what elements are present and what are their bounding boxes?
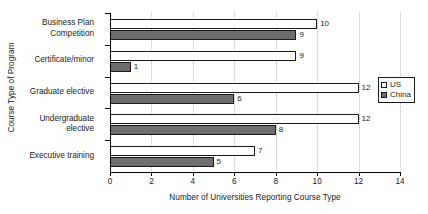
bar-value-label-us: 9 <box>299 51 303 61</box>
x-tick-label: 0 <box>97 177 123 186</box>
category-label: Business PlanCompetition <box>2 18 94 39</box>
bar-value-label-china: 8 <box>279 125 283 135</box>
x-tick <box>317 172 318 176</box>
y-tick <box>105 13 110 14</box>
bar-value-label-us: 10 <box>320 19 329 29</box>
bar-us <box>110 83 359 93</box>
x-tick <box>110 172 111 176</box>
bar-value-label-china: 5 <box>217 157 221 167</box>
x-tick <box>276 172 277 176</box>
x-tick-label: 2 <box>138 177 164 186</box>
bar-group: 91 <box>110 45 400 77</box>
x-tick <box>400 172 401 176</box>
x-axis-title: Number of Universities Reporting Course … <box>110 193 400 202</box>
bar-group: 75 <box>110 140 400 172</box>
bar-group: 128 <box>110 108 400 140</box>
y-tick <box>105 140 110 141</box>
category-label: Certificate/minor <box>2 55 94 66</box>
bar-us <box>110 19 317 29</box>
legend-label-china: China <box>390 90 411 100</box>
legend-swatch-china <box>381 92 387 98</box>
legend-label-us: US <box>390 80 401 90</box>
legend-item-us: US <box>381 80 411 90</box>
y-tick <box>105 45 110 46</box>
bar-value-label-us: 7 <box>258 146 262 156</box>
bar-value-label-china: 6 <box>237 94 241 104</box>
bar-value-label-us: 12 <box>362 83 371 93</box>
bar-value-label-us: 12 <box>362 114 371 124</box>
category-label: Graduate elective <box>2 87 94 98</box>
x-tick <box>151 172 152 176</box>
bar-group: 126 <box>110 77 400 109</box>
bar-chart-figure: Course Type of Program Number of Univers… <box>0 0 428 214</box>
y-tick <box>105 108 110 109</box>
bar-us <box>110 51 296 61</box>
category-label-line: Competition <box>2 29 94 40</box>
category-label-line: Certificate/minor <box>2 55 94 66</box>
legend-item-china: China <box>381 90 411 100</box>
bar-china <box>110 94 234 104</box>
plot-area: 1099112612875 <box>110 13 400 172</box>
category-label-line: Executive training <box>2 151 94 162</box>
x-tick-label: 12 <box>346 177 372 186</box>
bar-value-label-china: 9 <box>299 30 303 40</box>
category-label: Undergraduateelective <box>2 114 94 135</box>
category-label: Executive training <box>2 151 94 162</box>
x-tick <box>359 172 360 176</box>
category-label-line: Undergraduate <box>2 114 94 125</box>
bar-china <box>110 62 131 72</box>
chart-legend: US China <box>378 77 415 103</box>
x-tick-label: 14 <box>387 177 413 186</box>
bar-china <box>110 157 214 167</box>
x-tick-label: 10 <box>304 177 330 186</box>
y-tick <box>105 77 110 78</box>
x-axis-line <box>110 172 401 173</box>
bar-value-label-china: 1 <box>134 62 138 72</box>
x-tick <box>193 172 194 176</box>
legend-swatch-us <box>381 82 387 88</box>
category-label-line: Graduate elective <box>2 87 94 98</box>
category-label-line: elective <box>2 124 94 135</box>
y-axis-line <box>110 13 111 172</box>
x-tick <box>234 172 235 176</box>
bar-group: 109 <box>110 13 400 45</box>
x-tick-label: 6 <box>221 177 247 186</box>
bar-us <box>110 146 255 156</box>
x-tick-label: 8 <box>263 177 289 186</box>
x-tick-label: 4 <box>180 177 206 186</box>
category-label-line: Business Plan <box>2 18 94 29</box>
bar-china <box>110 125 276 135</box>
bar-china <box>110 30 296 40</box>
bar-us <box>110 114 359 124</box>
